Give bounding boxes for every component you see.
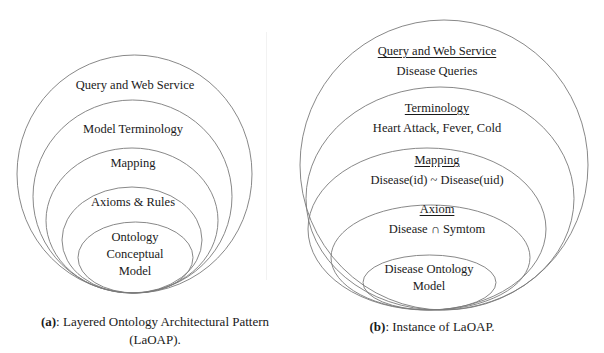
caption-a-text: : Layered Ontology Architectural Pattern	[56, 314, 269, 329]
b-label-model-line1: Disease Ontology	[384, 262, 473, 277]
a-label-ontology-line2: Conceptual	[107, 247, 164, 262]
a-label-mapping: Mapping	[110, 156, 155, 171]
b-layer-axiom	[331, 205, 530, 310]
caption-a-tag: (a)	[41, 314, 56, 329]
b-detail-mapping: Disease(id) ~ Disease(uid)	[370, 173, 503, 188]
b-detail-axiom: Disease ∩ Symtom	[389, 222, 486, 237]
caption-b: (b): Instance of LaOAP.	[370, 319, 495, 335]
caption-a: (a): Layered Ontology Architectural Patt…	[41, 314, 269, 330]
a-label-ontology-line3: Model	[119, 264, 152, 279]
a-label-query-web-service: Query and Web Service	[76, 78, 195, 93]
caption-a-line2: (LaOAP).	[129, 332, 181, 348]
b-label-model-line2: Model	[413, 279, 446, 294]
a-label-model-terminology: Model Terminology	[83, 122, 183, 137]
b-title-mapping: Mapping	[414, 153, 459, 168]
b-title-query-web-service: Query and Web Service	[378, 44, 497, 59]
b-title-terminology: Terminology	[405, 101, 469, 116]
b-detail-terminology: Heart Attack, Fever, Cold	[373, 121, 501, 136]
a-label-axioms-rules: Axioms & Rules	[91, 195, 175, 210]
diagram-canvas	[0, 0, 604, 353]
caption-b-tag: (b)	[370, 319, 386, 334]
caption-b-text: : Instance of LaOAP.	[385, 319, 494, 334]
a-label-ontology-line1: Ontology	[111, 230, 158, 245]
panel-separator	[266, 32, 267, 280]
b-detail-disease-queries: Disease Queries	[397, 64, 478, 79]
b-title-axiom: Axiom	[420, 202, 455, 217]
